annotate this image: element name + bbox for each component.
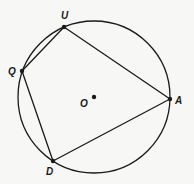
center-dot bbox=[92, 95, 96, 99]
label-a: A bbox=[174, 95, 182, 106]
point-d-dot bbox=[51, 159, 55, 163]
label-d: D bbox=[46, 166, 53, 177]
point-u-dot bbox=[62, 25, 66, 29]
center-o: O bbox=[80, 95, 96, 109]
label-q: Q bbox=[8, 66, 16, 77]
quadrilateral-uadq bbox=[22, 27, 170, 161]
label-o: O bbox=[80, 98, 88, 109]
point-a-dot bbox=[168, 97, 172, 101]
point-q-dot bbox=[20, 69, 24, 73]
inscribed-quadrilateral-diagram: U A D Q O bbox=[0, 0, 194, 184]
vertex-d: D bbox=[46, 159, 55, 177]
label-u: U bbox=[61, 10, 69, 21]
